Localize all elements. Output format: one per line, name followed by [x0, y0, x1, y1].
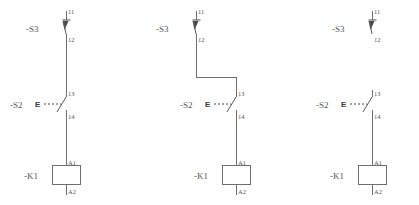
- circuit-2-s3-terminal-11: 11: [198, 8, 204, 15]
- circuit-1-switch-top[interactable]: -S3 11 12: [26, 8, 75, 43]
- circuit-2-s2-terminal-14: 14: [238, 113, 245, 120]
- circuit-3-switch-mid[interactable]: E -S2 13 14: [316, 90, 381, 120]
- circuit-1-s2-blade-icon: [57, 97, 66, 112]
- circuit-3-coil[interactable]: -K1 A1 A2: [330, 159, 387, 195]
- circuit-2-coil-box-icon: [223, 166, 251, 185]
- circuit-1-s2-terminal-14: 14: [68, 113, 75, 120]
- circuit-2-s2-blade-icon: [227, 97, 236, 112]
- circuit-1-s2-label: -S2: [10, 100, 23, 110]
- circuit-3-k1-label: -K1: [330, 171, 344, 181]
- circuit-3-s2-terminal-14: 14: [374, 113, 381, 120]
- circuit-3-switch-top[interactable]: -S3 11 12: [332, 8, 381, 43]
- circuit-3-s2-actuator-symbol: E: [341, 100, 347, 109]
- circuit-2-k1-label: -K1: [194, 171, 208, 181]
- circuit-1-s3-terminal-12: 12: [68, 36, 75, 43]
- circuit-2: -S3 11 12 E -S2 13 14 -K1 A1 A2: [156, 8, 251, 195]
- circuit-3-k1-terminal-a2: A2: [374, 188, 382, 195]
- circuit-2-s2-actuator-symbol: E: [205, 100, 211, 109]
- circuit-3-s2-blade-icon: [363, 97, 372, 112]
- circuit-1: -S3 11 12 E -S2 13 14 -K1 A1 A2: [10, 8, 81, 195]
- circuit-1-switch-mid[interactable]: E -S2 13 14: [10, 90, 75, 120]
- circuit-3-s3-terminal-12: 12: [374, 36, 381, 43]
- circuit-3-k1-terminal-a1: A1: [374, 159, 382, 166]
- circuit-2-k1-terminal-a1: A1: [238, 159, 246, 166]
- circuit-2-s3-label: -S3: [156, 24, 169, 34]
- circuit-1-s2-terminal-13: 13: [68, 90, 75, 97]
- circuit-1-s3-label: -S3: [26, 24, 39, 34]
- circuit-1-k1-label: -K1: [24, 171, 38, 181]
- circuit-2-coil[interactable]: -K1 A1 A2: [194, 159, 251, 195]
- schematic-sheet: -S3 11 12 E -S2 13 14 -K1 A1 A2: [0, 0, 419, 205]
- circuit-3-s2-label: -S2: [316, 100, 329, 110]
- circuit-1-k1-terminal-a1: A1: [68, 159, 76, 166]
- circuit-3: -S3 11 12 E -S2 13 14 -K1 A1 A2: [316, 8, 387, 195]
- circuit-3-s2-terminal-13: 13: [374, 90, 381, 97]
- circuit-1-s3-terminal-11: 11: [68, 8, 74, 15]
- schematic-canvas: -S3 11 12 E -S2 13 14 -K1 A1 A2: [0, 0, 419, 205]
- circuit-2-k1-terminal-a2: A2: [238, 188, 246, 195]
- circuit-1-coil[interactable]: -K1 A1 A2: [24, 159, 81, 195]
- circuit-1-s2-actuator-symbol: E: [35, 100, 41, 109]
- circuit-2-switch-mid[interactable]: E -S2 13 14: [180, 90, 245, 120]
- circuit-2-switch-top[interactable]: -S3 11 12: [156, 8, 205, 43]
- circuit-3-coil-box-icon: [359, 166, 387, 185]
- circuit-2-wire-12-to-13-jog: [196, 34, 236, 97]
- circuit-3-s3-label: -S3: [332, 24, 345, 34]
- circuit-1-k1-terminal-a2: A2: [68, 188, 76, 195]
- circuit-3-s3-terminal-11: 11: [374, 8, 380, 15]
- circuit-2-s3-terminal-12: 12: [198, 36, 205, 43]
- circuit-2-s2-label: -S2: [180, 100, 193, 110]
- circuit-2-s2-terminal-13: 13: [238, 90, 245, 97]
- circuit-1-coil-box-icon: [53, 166, 81, 185]
